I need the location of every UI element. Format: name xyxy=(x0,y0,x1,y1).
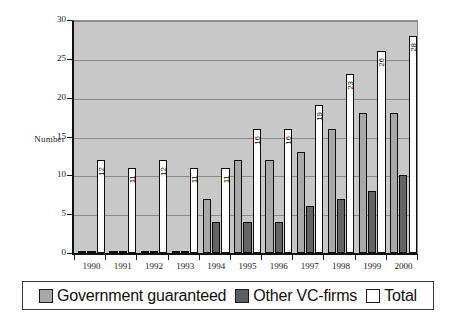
bar-value-label: 11 xyxy=(127,175,136,183)
y-tick-label: 10 xyxy=(40,169,66,179)
bar-government-guaranteed-1999 xyxy=(359,113,367,253)
x-tick-mark xyxy=(136,255,137,260)
bar-group: 28 xyxy=(388,21,419,253)
bar-total-1994: 11 xyxy=(221,168,229,253)
bar-government-guaranteed-1996 xyxy=(265,160,273,253)
bar-total-1997: 19 xyxy=(315,105,323,253)
bar-group: 23 xyxy=(325,21,356,253)
legend-item-total[interactable]: Total xyxy=(366,287,417,305)
bar-total-1992: 12 xyxy=(159,160,167,253)
legend-label: Government guaranteed xyxy=(57,287,226,305)
y-tick-label: 25 xyxy=(40,53,66,63)
y-tick-label: 15 xyxy=(40,131,66,141)
bar-total-1991: 11 xyxy=(128,168,136,253)
bar-value-label: 12 xyxy=(96,167,105,175)
bar-group: 11 xyxy=(170,21,201,253)
x-tick-mark xyxy=(292,255,293,260)
x-tick-mark xyxy=(230,255,231,260)
bar-group: 19 xyxy=(294,21,325,253)
y-tick-label: 30 xyxy=(40,14,66,24)
bar-total-2000: 28 xyxy=(409,36,417,253)
bar-total-1996: 16 xyxy=(284,129,292,253)
bar-group: 16 xyxy=(263,21,294,253)
bar-other-vc-firms-1992 xyxy=(150,251,158,253)
bar-other-vc-firms-1998 xyxy=(337,199,345,253)
bar-chart: Number 051015202530 12111211111616192326… xyxy=(0,0,456,321)
y-tick-label: 20 xyxy=(40,92,66,102)
legend-item-gov[interactable]: Government guaranteed xyxy=(39,287,226,305)
bar-group: 12 xyxy=(76,21,107,253)
bar-group: 16 xyxy=(232,21,263,253)
bar-government-guaranteed-1995 xyxy=(234,160,242,253)
legend-label: Total xyxy=(384,287,417,305)
bar-value-label: 11 xyxy=(190,175,199,183)
bar-government-guaranteed-2000 xyxy=(390,113,398,253)
bar-group: 11 xyxy=(201,21,232,253)
x-tick-label-2000: 2000 xyxy=(383,261,423,271)
y-tick-label: 0 xyxy=(40,247,66,257)
bar-value-label: 23 xyxy=(346,82,355,90)
bar-government-guaranteed-1998 xyxy=(328,129,336,253)
bar-other-vc-firms-1990 xyxy=(87,251,95,253)
chart-legend: Government guaranteedOther VC-firmsTotal xyxy=(22,281,434,310)
bar-other-vc-firms-1991 xyxy=(119,251,127,253)
bar-government-guaranteed-1992 xyxy=(141,251,149,253)
y-tick-label: 5 xyxy=(40,208,66,218)
x-tick-mark xyxy=(105,255,106,260)
bar-group: 12 xyxy=(138,21,169,253)
bar-value-label: 28 xyxy=(408,43,417,51)
bar-value-label: 26 xyxy=(377,58,386,66)
x-tick-mark xyxy=(386,255,387,260)
legend-label: Other VC-firms xyxy=(253,287,357,305)
bar-government-guaranteed-1997 xyxy=(297,152,305,253)
bar-government-guaranteed-1994 xyxy=(203,199,211,253)
bar-group: 11 xyxy=(107,21,138,253)
bar-other-vc-firms-1994 xyxy=(212,222,220,253)
x-tick-mark xyxy=(74,255,75,260)
x-tick-mark xyxy=(355,255,356,260)
bar-other-vc-firms-1995 xyxy=(243,222,251,253)
legend-swatch-total-icon xyxy=(366,289,380,303)
bar-other-vc-firms-1993 xyxy=(181,251,189,253)
bar-other-vc-firms-1999 xyxy=(368,191,376,253)
x-tick-mark xyxy=(199,255,200,260)
bar-value-label: 16 xyxy=(283,136,292,144)
bar-total-1995: 16 xyxy=(253,129,261,253)
bar-other-vc-firms-1997 xyxy=(306,206,314,253)
bar-total-1999: 26 xyxy=(377,51,385,253)
bar-value-label: 19 xyxy=(315,113,324,121)
plot-inner: 1211121111161619232628 xyxy=(74,21,417,253)
bar-government-guaranteed-1990 xyxy=(78,251,86,253)
bar-value-label: 16 xyxy=(252,136,261,144)
x-tick-mark xyxy=(261,255,262,260)
legend-swatch-other-icon xyxy=(235,289,249,303)
x-tick-mark xyxy=(168,255,169,260)
bar-other-vc-firms-1996 xyxy=(275,222,283,253)
bar-other-vc-firms-2000 xyxy=(399,175,407,253)
x-tick-mark xyxy=(417,255,418,260)
legend-swatch-gov-icon xyxy=(39,289,53,303)
bar-total-1993: 11 xyxy=(190,168,198,253)
bar-value-label: 11 xyxy=(221,175,230,183)
bar-government-guaranteed-1993 xyxy=(172,251,180,253)
bar-total-1998: 23 xyxy=(346,74,354,253)
legend-item-other[interactable]: Other VC-firms xyxy=(235,287,357,305)
x-tick-mark xyxy=(323,255,324,260)
bar-total-1990: 12 xyxy=(97,160,105,253)
bar-group: 26 xyxy=(357,21,388,253)
bar-value-label: 12 xyxy=(159,167,168,175)
plot-area: 1211121111161619232628 xyxy=(72,20,418,255)
bar-government-guaranteed-1991 xyxy=(109,251,117,253)
